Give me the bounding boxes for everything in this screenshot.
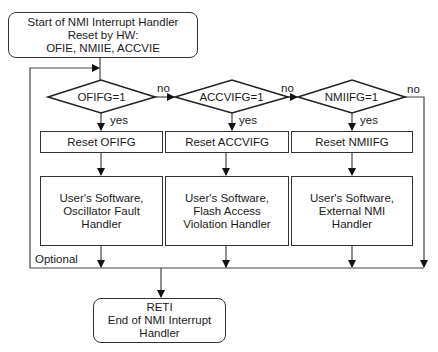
no-label-nmiifg: no [407,83,420,96]
start-node: Start of NMI Interrupt Handler Reset by … [8,12,198,58]
reset-ofifg-label: Reset OFIFG [67,136,135,149]
decision-label-accvifg: ACCVIFG=1 [175,91,288,104]
end-line-3: Handler [139,327,179,340]
start-line-2: Reset by HW: [68,29,139,42]
yes-label-nmiifg: yes [360,114,378,127]
reset-ofifg-node: Reset OFIFG [40,131,163,153]
handler-oscillator-fault-node: User's Software, Oscillator Fault Handle… [40,176,163,246]
handler-1-line-3: Handler [81,218,121,231]
reset-nmiifg-label: Reset NMIIFG [315,136,388,149]
start-line-3: OFIE, NMIIE, ACCVIE [46,42,160,55]
handler-3-line-1: User's Software, [310,192,394,205]
optional-label: Optional [35,253,78,266]
decision-label-nmiifg: NMIIFG=1 [298,91,405,104]
handler-1-line-1: User's Software, [60,192,144,205]
yes-label-accvifg: yes [239,114,257,127]
handler-2-line-3: Violation Handler [183,218,270,231]
handler-3-line-3: Handler [332,218,372,231]
handler-3-line-2: External NMI [319,205,385,218]
handler-2-line-1: User's Software, [185,192,269,205]
yes-label-ofifg: yes [110,114,128,127]
reset-accvifg-node: Reset ACCVIFG [165,131,289,153]
end-line-1: RETI [146,301,172,314]
reset-accvifg-label: Reset ACCVIFG [185,136,269,149]
end-node: RETI End of NMI Interrupt Handler [93,298,226,343]
handler-2-line-2: Flash Access [193,205,261,218]
no-label-ofifg: no [157,82,170,95]
no-label-accvifg: no [281,82,294,95]
handler-flash-access-violation-node: User's Software, Flash Access Violation … [165,176,289,246]
end-line-2: End of NMI Interrupt [108,314,212,327]
handler-external-nmi-node: User's Software, External NMI Handler [291,176,413,246]
handler-1-line-2: Oscillator Fault [63,205,140,218]
decision-label-ofifg: OFIFG=1 [48,91,155,104]
reset-nmiifg-node: Reset NMIIFG [291,131,413,153]
start-line-1: Start of NMI Interrupt Handler [28,16,179,29]
